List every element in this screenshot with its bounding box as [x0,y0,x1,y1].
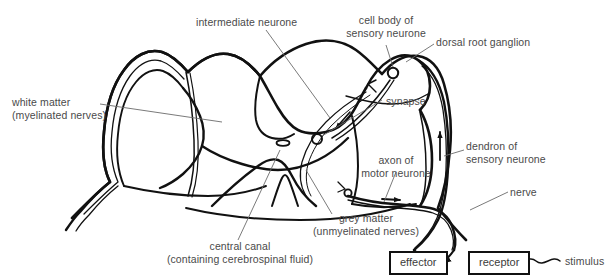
grey-matter-central-lower [202,138,348,170]
label-dendron-line2: sensory neurone [466,153,546,166]
spinal-cord-outer-membrane [72,41,466,240]
receptor-box[interactable]: receptor [468,251,530,275]
white-matter-left-inner-contour [117,70,183,186]
leader-cell-body [386,45,393,67]
label-grey-matter-line2: (unmyelinated nerves) [300,225,432,238]
central-canal-oval [277,140,290,146]
label-dendron-of-sensory-neurone: dendron of sensory neurone [466,140,546,165]
label-stimulus: stimulus [565,255,604,268]
label-axon-line1: axon of [350,154,442,167]
label-synapse: synapse [386,95,426,108]
label-nerve: nerve [510,186,537,199]
label-white-matter: white matter (myelinated nerves) [12,96,106,121]
sensory-cell-body-circle [388,68,398,78]
label-cell-body-line1: cell body of [326,14,446,27]
label-axon-of-motor-neurone: axon of motor neurone [350,154,442,179]
label-central-canal-line1: central canal [120,240,360,253]
label-axon-line2: motor neurone [350,167,442,180]
label-white-matter-line2: (myelinated nerves) [12,109,106,122]
leader-grey-matter [306,170,332,214]
label-grey-matter: grey matter (unmyelinated nerves) [300,212,432,237]
arrow-to-motor-synapse [338,182,345,192]
label-central-canal: central canal (containing cerebrospinal … [120,240,360,265]
effector-box[interactable]: effector [389,251,448,275]
label-intermediate-neurone: intermediate neurone [196,16,297,29]
label-cell-body-line2: sensory neurone [326,27,446,40]
leader-nerve [470,192,508,210]
label-central-canal-line2: (containing cerebrospinal fluid) [120,253,360,266]
label-grey-matter-line1: grey matter [300,212,432,225]
label-white-matter-line1: white matter [12,96,106,109]
leader-white-matter [100,104,222,122]
grey-matter-left-descending-horn [255,76,294,139]
diagram-stage: intermediate neurone cell body of sensor… [0,0,610,280]
label-dendron-line1: dendron of [466,140,546,153]
label-cell-body-sensory-neurone: cell body of sensory neurone [326,14,446,39]
label-dorsal-root-ganglion: dorsal root ganglion [436,36,530,49]
